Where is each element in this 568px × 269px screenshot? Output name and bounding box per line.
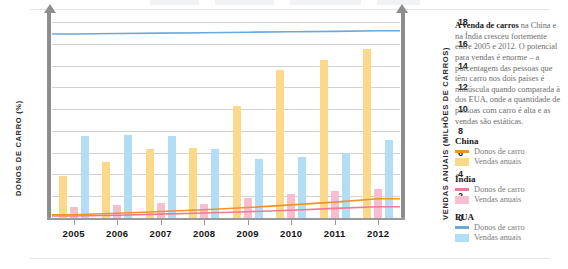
- x-axis-tick: [204, 219, 205, 225]
- legend-line-swatch-icon: [455, 226, 469, 229]
- legend-block-eua: EUADonos de carroVendas anuais: [455, 212, 563, 243]
- legend-row-line: Donos de carro: [455, 147, 563, 157]
- legend-country-title: EUA: [455, 212, 563, 222]
- side-panel: A venda de carros na China e na Índia cr…: [455, 13, 563, 243]
- x-axis-label-2008: 2008: [181, 228, 227, 239]
- legend-bar-swatch-icon: [455, 196, 469, 204]
- legend-row-line: Donos de carro: [455, 185, 563, 195]
- x-axis-label-2009: 2009: [225, 228, 271, 239]
- legend-country-title: China: [455, 136, 563, 146]
- x-axis-tick: [117, 219, 118, 225]
- lead-bold: A venda de carros: [455, 21, 519, 30]
- line-series-layer: [52, 22, 400, 218]
- legend-line-label: Donos de carro: [474, 223, 525, 232]
- y-axis-right-arrow-icon: [396, 4, 408, 13]
- legend-bar-swatch-icon: [455, 158, 469, 166]
- legend-row-line: Donos de carro: [455, 223, 563, 233]
- x-axis-label-2007: 2007: [138, 228, 184, 239]
- x-axis-tick: [291, 219, 292, 225]
- legend-bar-label: Vendas anuais: [474, 233, 521, 242]
- legend-block-china: ChinaDonos de carroVendas anuais: [455, 136, 563, 167]
- plot-area: 0102030405060708090 024681012141618 2005…: [52, 22, 400, 218]
- y-axis-left: [47, 12, 51, 218]
- y-axis-left-arrow-icon: [44, 4, 56, 13]
- x-axis-label-2006: 2006: [94, 228, 140, 239]
- x-axis-tick: [161, 219, 162, 225]
- x-axis-label-2012: 2012: [355, 228, 401, 239]
- x-axis-label-2010: 2010: [268, 228, 314, 239]
- legend-country-title: Índia: [455, 174, 563, 184]
- top-rule: [30, 9, 550, 10]
- x-axis-label-2011: 2011: [312, 228, 358, 239]
- lead-rest: na China e na Índia cresceu fortemente e…: [455, 21, 560, 125]
- x-axis-tick: [378, 219, 379, 225]
- legend-line-swatch-icon: [455, 188, 469, 191]
- x-axis-label-2005: 2005: [51, 228, 97, 239]
- legend-bar-swatch-icon: [455, 234, 469, 242]
- x-axis: [47, 218, 405, 220]
- x-axis-tick: [248, 219, 249, 225]
- page-header-ghost: [150, 0, 420, 5]
- y-axis-right: [401, 12, 405, 218]
- x-axis-tick: [74, 219, 75, 225]
- legend-line-swatch-icon: [455, 150, 469, 153]
- legend-bar-label: Vendas anuais: [474, 195, 521, 204]
- legend-line-label: Donos de carro: [474, 185, 525, 194]
- line-eua: [52, 31, 400, 34]
- lead-paragraph: A venda de carros na China e na Índia cr…: [455, 21, 563, 127]
- chart-legend: ChinaDonos de carroVendas anuaisÍndiaDon…: [455, 136, 563, 243]
- legend-bar-label: Vendas anuais: [474, 157, 521, 166]
- legend-row-bar: Vendas anuais: [455, 157, 563, 167]
- legend-line-label: Donos de carro: [474, 147, 525, 156]
- legend-row-bar: Vendas anuais: [455, 195, 563, 205]
- bottom-rule: [30, 258, 550, 259]
- legend-row-bar: Vendas anuais: [455, 233, 563, 243]
- infographic-chart: 0102030405060708090 024681012141618 2005…: [0, 0, 568, 269]
- x-axis-tick: [335, 219, 336, 225]
- y-axis-left-title: DONOS DE CARRO (%): [14, 100, 23, 196]
- legend-block-índia: ÍndiaDonos de carroVendas anuais: [455, 174, 563, 205]
- y-axis-right-title: VENDAS ANUAIS (MILHÕES DE CARROS): [441, 47, 450, 220]
